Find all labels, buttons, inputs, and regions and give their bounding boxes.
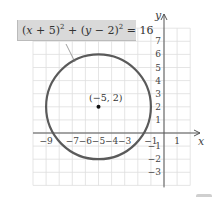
- eq-part: + (: [64, 24, 85, 37]
- x-tick-label: −7: [66, 136, 80, 146]
- x-tick-label: 1: [174, 136, 180, 146]
- grid-lines: [33, 28, 190, 185]
- label-leader-line: [66, 44, 75, 62]
- y-axis-label: y: [154, 9, 162, 22]
- x-tick-label: −6: [79, 136, 93, 146]
- x-tick-label: −4: [105, 136, 119, 146]
- y-tick-label: −3: [148, 167, 162, 177]
- eq-part: − 2): [91, 24, 119, 37]
- x-tick-label: −5: [92, 136, 106, 146]
- y-tick-label: −1: [148, 141, 161, 151]
- center-point: [97, 105, 101, 109]
- equation-label: (x + 5)2 + (y − 2)2 = 16: [22, 23, 153, 37]
- y-tick-label: 7: [155, 36, 161, 46]
- y-tick-label: 5: [155, 63, 161, 73]
- x-axis-label: x: [198, 135, 205, 148]
- y-tick-label: 6: [155, 49, 161, 59]
- y-tick-label: 3: [155, 89, 161, 99]
- corner-tab: [196, 194, 212, 197]
- x-tick-label: −9: [39, 136, 53, 146]
- y-tick-label: −2: [148, 154, 161, 164]
- eq-part: = 16: [123, 24, 153, 37]
- eq-part: + 5): [33, 24, 61, 37]
- center-label: (−5, 2): [89, 92, 123, 103]
- y-tick-label: 1: [155, 115, 161, 125]
- y-tick-label: 4: [155, 76, 161, 86]
- x-tick-label: −3: [118, 136, 132, 146]
- y-tick-label: 2: [155, 102, 161, 112]
